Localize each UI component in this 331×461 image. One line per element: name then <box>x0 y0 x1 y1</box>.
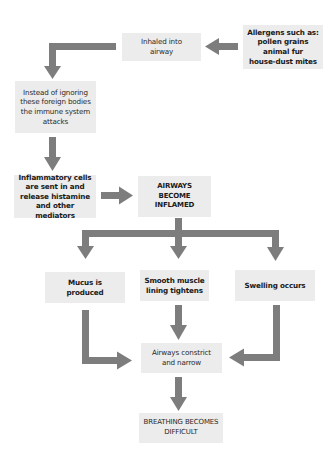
node-smooth-muscle: Smooth muscle lining tightens <box>140 270 209 301</box>
arrow-allergens-to-inhaled <box>205 38 238 55</box>
node-swelling: Swelling occurs <box>235 270 315 301</box>
node-airways-inflamed: AIRWAYS BECOME INFLAMED <box>138 176 211 217</box>
arrow-inflamed-branches <box>77 218 284 261</box>
arrow-mucus-to-constrict <box>82 310 132 370</box>
node-breathing-difficult: BREATHING BECOMES DIFFICULT <box>139 413 223 443</box>
arrow-constrict-to-breathing <box>170 377 187 411</box>
arrows-layer <box>0 0 331 461</box>
node-inhaled: Inhaled into airway <box>122 33 201 61</box>
arrow-smooth-muscle-to-constrict <box>170 305 187 340</box>
arrow-inhaled-to-immune <box>44 43 116 79</box>
node-airways-constrict: Airways constrict and narrow <box>141 343 222 373</box>
arrow-swelling-to-constrict <box>229 305 280 367</box>
arrow-immune-to-inflammatory <box>44 137 61 171</box>
arrow-inflammatory-to-inflamed <box>101 187 133 205</box>
node-allergens: Allergens such as: pollen grains animal … <box>243 25 323 69</box>
node-inflammatory-cells: Inflammatory cells are sent in and relea… <box>14 175 96 218</box>
node-immune-attacks: Instead of ignoring these foreign bodies… <box>15 81 96 133</box>
node-mucus-produced: Mucus is produced <box>45 272 125 303</box>
